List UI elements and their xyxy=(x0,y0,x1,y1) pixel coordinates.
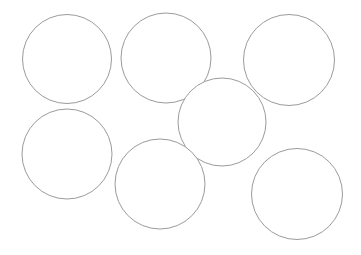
circles-figure xyxy=(0,0,361,255)
circle-top-left xyxy=(23,15,112,104)
circle-bottom-right xyxy=(252,149,343,240)
figure-canvas xyxy=(0,0,361,255)
circle-bottom-left xyxy=(22,109,112,199)
circle-top-right xyxy=(244,15,335,106)
circle-bottom-center xyxy=(115,139,205,229)
